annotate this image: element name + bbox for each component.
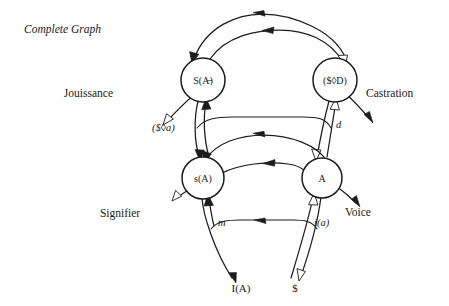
arrowhead-open-signifier-tail (172, 190, 182, 201)
arrowhead-middle-arc-left (253, 131, 265, 137)
edge-lower-left-down (202, 198, 236, 283)
arrowhead-open-barred-subject (297, 269, 305, 281)
node-s-a-label: s(A) (194, 173, 212, 185)
edge-label-moi-m: m (218, 217, 226, 228)
edge-middle-inner-line (222, 160, 304, 174)
arrowhead-upper-inner-right (262, 27, 274, 34)
node-s-a[interactable]: s(A) (182, 157, 224, 199)
label-voice: Voice (345, 206, 371, 218)
node-a-label: A (318, 173, 326, 184)
complete-graph-figure: S(A̶) ($◊D) s(A) A ($◊a) d m i(a) Jouiss… (0, 0, 449, 306)
terminal-label-barred-subject: $ (292, 282, 298, 294)
arrowhead-lower-horizontal-left (254, 218, 266, 224)
edge-label-fantasy-matheme: ($◊a) (152, 122, 175, 134)
node-barred-s-lozenge-d[interactable]: ($◊D) (313, 58, 357, 102)
vector-jouissance (163, 95, 194, 125)
terminal-label-ideal-ego: I(A) (232, 282, 251, 295)
figure-title: Complete Graph (24, 23, 101, 36)
vector-voice (336, 186, 360, 207)
label-signifier: Signifier (100, 207, 140, 220)
edge-label-imaginary-i-a: i(a) (314, 217, 330, 229)
edge-label-demand-d: d (336, 119, 342, 130)
label-jouissance: Jouissance (64, 87, 113, 99)
edge-lower-right-down (297, 197, 321, 281)
edge-upper-outer-arc (190, 11, 348, 66)
edge-lower-horizontal (211, 218, 317, 229)
edge-right-vertical-down (312, 101, 329, 161)
edge-upper-horizontal (197, 117, 331, 128)
node-s-barred-a[interactable]: S(A̶) (181, 58, 225, 102)
node-barred-s-lozenge-d-label: ($◊D) (323, 75, 347, 87)
graph-canvas: S(A̶) ($◊D) s(A) A ($◊a) d m i(a) Jouiss… (0, 0, 449, 306)
node-s-barred-a-label: S(A̶) (193, 75, 212, 87)
arrowhead-upper-arc-left (253, 11, 265, 17)
node-a[interactable]: A (302, 158, 342, 198)
arrowhead-middle-inner-right (263, 160, 275, 167)
label-castration: Castration (366, 87, 414, 99)
edge-middle-outer-arc (202, 131, 328, 163)
edge-left-vertical-up (202, 98, 211, 157)
